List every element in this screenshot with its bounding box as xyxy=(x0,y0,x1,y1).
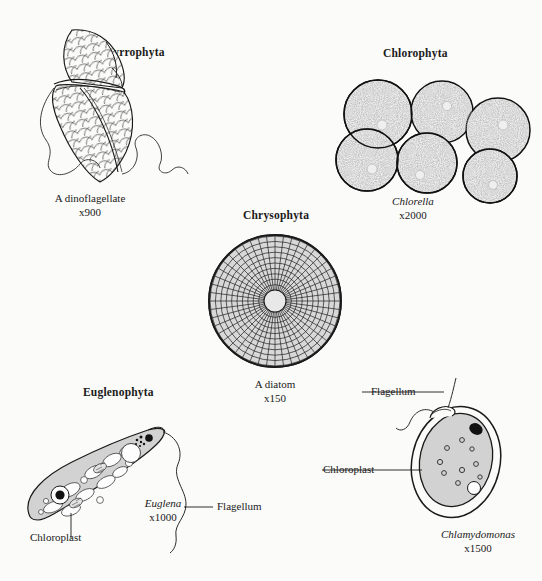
figure-diatom xyxy=(205,231,345,371)
caption-chlamydomonas: Chlamydomonas x1500 xyxy=(413,528,542,556)
magnification-dinoflagellate: x900 xyxy=(20,206,160,220)
caption-chlorella: Chlorella x2000 xyxy=(358,195,468,223)
figure-dinoflagellate xyxy=(14,22,204,202)
heading-chlorophyta: Chlorophyta xyxy=(383,47,448,59)
magnification-diatom: x150 xyxy=(222,392,328,406)
organism-name-chlamydomonas: Chlamydomonas xyxy=(413,528,542,542)
heading-chrysophyta: Chrysophyta xyxy=(243,209,309,221)
organism-name-euglena: Euglena xyxy=(118,497,208,511)
magnification-euglena: x1000 xyxy=(118,511,208,525)
figure-sheet: Pyrrophyta xyxy=(0,0,542,581)
label-euglena-chloroplast: Chloroplast xyxy=(30,531,81,543)
label-euglena-flagellum: Flagellum xyxy=(217,500,262,512)
caption-diatom: A diatom x150 xyxy=(222,378,328,406)
figure-chlorella-cluster xyxy=(330,72,535,192)
magnification-chlorella: x2000 xyxy=(358,209,468,223)
organism-name-dinoflagellate: A dinoflagellate xyxy=(55,192,126,204)
caption-euglena: Euglena x1000 xyxy=(118,497,208,525)
caption-dinoflagellate: A dinoflagellate x900 xyxy=(20,192,160,220)
label-chlamydomonas-chloroplast: Chloroplast xyxy=(323,463,374,475)
organism-name-diatom: A diatom xyxy=(255,378,296,390)
label-chlamydomonas-flagellum: Flagellum xyxy=(371,385,416,397)
magnification-chlamydomonas: x1500 xyxy=(413,542,542,556)
organism-name-chlorella: Chlorella xyxy=(358,195,468,209)
heading-euglenophyta: Euglenophyta xyxy=(83,386,154,398)
figure-chlamydomonas xyxy=(352,378,532,528)
